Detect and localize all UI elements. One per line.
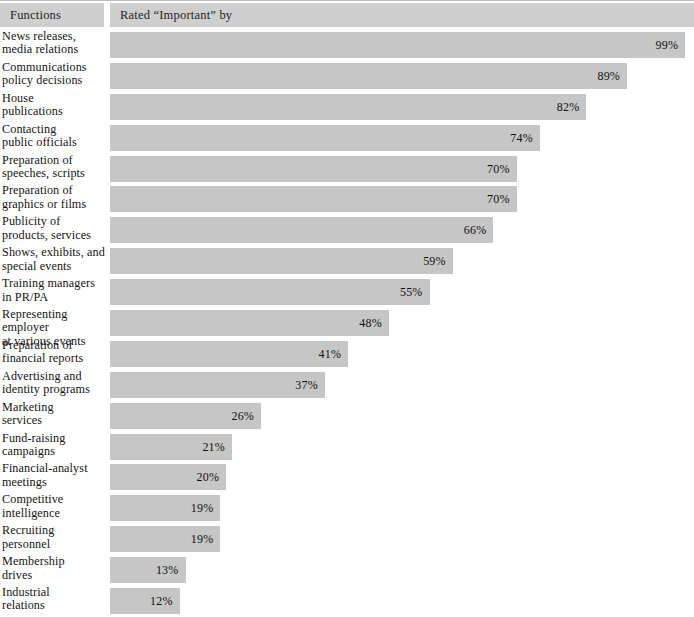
- bar-track: 26%: [110, 403, 261, 429]
- row-label-line1: Contacting: [2, 122, 56, 136]
- row-label-line2: in PR/PA: [2, 291, 106, 304]
- row-label-line1: Recruiting: [2, 523, 54, 537]
- row-label-line2: speeches, scripts: [2, 167, 106, 180]
- bar-track: 13%: [110, 557, 186, 583]
- bar-row: Preparation ofgraphics or films70%: [0, 184, 694, 215]
- bar-value-label: 19%: [191, 532, 214, 547]
- bar-track: 19%: [110, 495, 220, 521]
- bar: 19%: [110, 495, 220, 521]
- bar: 70%: [110, 186, 517, 212]
- row-label-line2: drives: [2, 569, 106, 582]
- bar-row: Fund-raisingcampaigns21%: [0, 432, 694, 463]
- row-label-line2: publications: [2, 105, 106, 118]
- bar: 55%: [110, 279, 430, 305]
- bar-value-label: 21%: [202, 439, 225, 454]
- bar-row: Recruitingpersonnel19%: [0, 524, 694, 555]
- row-label-line1: House: [2, 91, 34, 105]
- header-cell-rated: Rated “Important” by: [110, 3, 694, 27]
- row-label-line2: personnel: [2, 538, 106, 551]
- bar: 66%: [110, 217, 493, 243]
- row-label: Competitiveintelligence: [2, 493, 106, 520]
- row-label-line1: Advertising and: [2, 369, 82, 383]
- row-label: Preparation offinancial reports: [2, 339, 106, 366]
- row-label: Marketingservices: [2, 401, 106, 428]
- bar-track: 12%: [110, 588, 180, 614]
- bar-value-label: 59%: [423, 254, 446, 269]
- row-label-line2: graphics or films: [2, 198, 106, 211]
- row-label-line1: Financial-analyst: [2, 461, 88, 475]
- row-label-line2: meetings: [2, 476, 106, 489]
- bar-value-label: 13%: [156, 563, 179, 578]
- row-label-line1: Publicity of: [2, 214, 60, 228]
- row-label-line2: intelligence: [2, 507, 106, 520]
- bar: 48%: [110, 310, 389, 336]
- bar-value-label: 99%: [656, 38, 679, 53]
- bar-row: Shows, exhibits, andspecial events59%: [0, 246, 694, 277]
- row-label-line2: media relations: [2, 43, 106, 56]
- bar: 12%: [110, 588, 180, 614]
- row-label-line2: relations: [2, 599, 106, 612]
- bar-row: Contactingpublic officials74%: [0, 123, 694, 154]
- bar: 26%: [110, 403, 261, 429]
- bar-track: 99%: [110, 32, 685, 58]
- bar-track: 82%: [110, 94, 586, 120]
- bar: 70%: [110, 156, 517, 182]
- row-label-line1: Marketing: [2, 400, 54, 414]
- bar-value-label: 82%: [557, 99, 580, 114]
- row-label: News releases,media relations: [2, 30, 106, 57]
- row-label-line1: Preparation of: [2, 338, 73, 352]
- bar-value-label: 41%: [319, 346, 342, 361]
- bar-value-label: 70%: [487, 161, 510, 176]
- row-label-line1: Industrial: [2, 585, 50, 599]
- chart-header: Functions Rated “Important” by: [0, 3, 694, 27]
- bar-row: Communicationspolicy decisions89%: [0, 61, 694, 92]
- bar-track: 66%: [110, 217, 493, 243]
- row-label: Publicity ofproducts, services: [2, 215, 106, 242]
- bar: 59%: [110, 248, 453, 274]
- row-label: Communicationspolicy decisions: [2, 61, 106, 88]
- bar-row: Representing employerat various events48…: [0, 308, 694, 339]
- rated-column-title: Rated “Important” by: [120, 8, 232, 23]
- row-label: Fund-raisingcampaigns: [2, 432, 106, 459]
- bar-value-label: 19%: [191, 501, 214, 516]
- row-label-line2: identity programs: [2, 383, 106, 396]
- bar-row: Preparation offinancial reports41%: [0, 339, 694, 370]
- row-label-line2: financial reports: [2, 352, 106, 365]
- bar-track: 48%: [110, 310, 389, 336]
- bar-chart: Functions Rated “Important” by News rele…: [0, 0, 694, 617]
- row-label-line2: public officials: [2, 136, 106, 149]
- row-label-line1: Communications: [2, 60, 87, 74]
- bar-value-label: 74%: [510, 130, 533, 145]
- bar: 21%: [110, 434, 232, 460]
- bar-value-label: 20%: [197, 470, 220, 485]
- bar: 19%: [110, 526, 220, 552]
- bar: 41%: [110, 341, 348, 367]
- row-label: Financial-analystmeetings: [2, 462, 106, 489]
- bar-value-label: 26%: [231, 408, 254, 423]
- bar: 89%: [110, 63, 627, 89]
- row-label: Preparation ofspeeches, scripts: [2, 154, 106, 181]
- bar-track: 19%: [110, 526, 220, 552]
- bar: 20%: [110, 464, 226, 490]
- bar-value-label: 12%: [150, 594, 173, 609]
- bar-track: 37%: [110, 372, 325, 398]
- row-label-line1: News releases,: [2, 29, 76, 43]
- bar-track: 55%: [110, 279, 430, 305]
- bar-track: 59%: [110, 248, 453, 274]
- bar-row: Financial-analystmeetings20%: [0, 462, 694, 493]
- bar-row: Membershipdrives13%: [0, 555, 694, 586]
- row-label: Housepublications: [2, 92, 106, 119]
- row-label-line2: services: [2, 414, 106, 427]
- bar-value-label: 48%: [359, 316, 382, 331]
- bar-row: News releases,media relations99%: [0, 30, 694, 61]
- bar-track: 70%: [110, 186, 517, 212]
- bar-row: Marketingservices26%: [0, 401, 694, 432]
- row-label: Membershipdrives: [2, 555, 106, 582]
- row-label: Advertising andidentity programs: [2, 370, 106, 397]
- row-label-line1: Preparation of: [2, 153, 73, 167]
- bar-track: 21%: [110, 434, 232, 460]
- bar-row: Competitiveintelligence19%: [0, 493, 694, 524]
- bar-track: 74%: [110, 125, 540, 151]
- bar: 99%: [110, 32, 685, 58]
- row-label: Recruitingpersonnel: [2, 524, 106, 551]
